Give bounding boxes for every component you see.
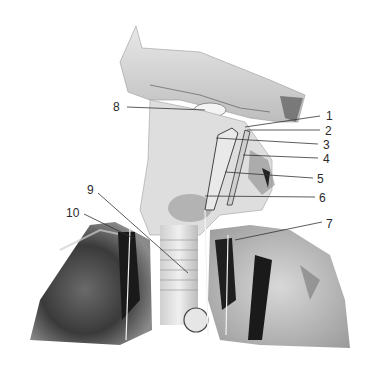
label-1: 1: [326, 109, 333, 123]
label-2: 2: [325, 124, 332, 138]
specimen-photo: 1 2 3 4 5 6 7 8 9 10: [0, 0, 373, 380]
neck-region: [140, 100, 275, 235]
anatomical-figure: 1 2 3 4 5 6 7 8 9 10: [0, 0, 373, 380]
label-9: 9: [87, 183, 94, 197]
label-4: 4: [323, 152, 330, 166]
label-7: 7: [326, 217, 333, 231]
label-5: 5: [317, 172, 324, 186]
label-6: 6: [319, 191, 326, 205]
label-10: 10: [66, 206, 80, 220]
label-3: 3: [323, 138, 330, 152]
label-8: 8: [113, 100, 120, 114]
thorax-region: [30, 210, 350, 348]
